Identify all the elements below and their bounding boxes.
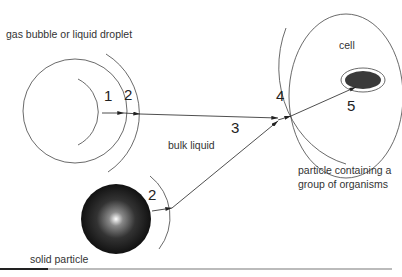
label-cell: cell [339,39,355,52]
step-2-bubble: 2 [124,87,132,102]
step-2-solid: 2 [148,187,156,202]
bottom-rule [0,268,392,270]
bottom-rule-accent [0,268,48,270]
label-bulk-liquid: bulk liquid [168,139,215,152]
arrow-step-2 [124,113,140,114]
label-solid-particle: solid particle [30,253,88,266]
arrow-solid-step-2 [152,208,172,211]
step-5: 5 [347,98,355,113]
solid-particle [81,176,170,254]
step-3: 3 [231,120,239,135]
arrow-solid-step-3 [172,121,278,208]
arrow-step-4 [278,116,291,120]
label-particle-group-1: particle containing a [298,164,391,177]
label-gas-bubble: gas bubble or liquid droplet [6,28,132,41]
label-particle-group-2: group of organisms [298,178,388,191]
step-1: 1 [104,88,112,103]
step-4: 4 [276,88,284,103]
arrow-step-3 [140,114,278,118]
